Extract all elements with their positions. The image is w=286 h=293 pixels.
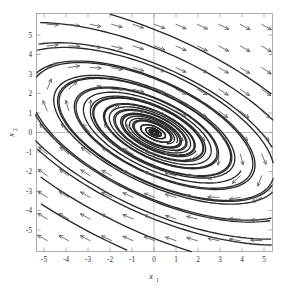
- field-arrow: [187, 237, 198, 241]
- field-arrow: [80, 214, 90, 219]
- field-arrow: [144, 172, 154, 176]
- field-arrow: [262, 111, 270, 118]
- field-arrow: [219, 24, 229, 29]
- x-tick-label: 2: [196, 256, 200, 264]
- field-arrow: [112, 46, 123, 49]
- field-arrow: [176, 68, 186, 73]
- field-arrow: [240, 46, 250, 51]
- trajectory-curve: [41, 204, 126, 250]
- y-tick-label: 1: [28, 110, 32, 118]
- field-arrow: [90, 66, 101, 69]
- field-arrow: [69, 65, 80, 68]
- x-axis-title-base: x: [148, 272, 153, 281]
- field-arrow: [240, 154, 243, 165]
- y-tick-label: -1: [26, 149, 32, 157]
- y-axis-title-base: x: [7, 133, 16, 138]
- field-arrow: [38, 213, 47, 219]
- field-arrow: [102, 214, 112, 219]
- x-tick-label: 5: [262, 256, 266, 264]
- x-axis-tickmarks: [44, 248, 264, 252]
- trajectory-curve: [41, 177, 191, 251]
- x-tick-label: -1: [129, 256, 135, 264]
- trajectory-curve: [36, 141, 271, 239]
- x-axis-title: x 1: [148, 272, 159, 283]
- x-axis-title-subscript: 1: [156, 277, 159, 283]
- y-tick-label: 2: [28, 90, 32, 98]
- field-arrow: [187, 216, 198, 219]
- y-tick-label: -5: [26, 227, 32, 235]
- y-tick-label: -2: [26, 168, 32, 176]
- field-arrow: [59, 235, 69, 240]
- x-tick-label: 1: [174, 256, 178, 264]
- field-arrow: [262, 68, 271, 74]
- y-axis-tick-labels: 5 4 3 2 1 0 -1 -2 -3 -4 -5: [26, 32, 32, 235]
- field-arrow: [47, 44, 58, 47]
- field-arrow: [144, 215, 154, 219]
- x-tick-label: 4: [240, 256, 244, 264]
- field-arrow: [47, 79, 51, 89]
- field-arrow: [123, 214, 133, 219]
- x-axis-tickmarks-top: [44, 14, 264, 18]
- y-tick-label: 4: [28, 51, 32, 59]
- field-arrow: [262, 133, 269, 141]
- y-tick-label: -3: [26, 188, 32, 196]
- field-arrow: [38, 235, 48, 240]
- y-tick-label: -4: [26, 207, 32, 215]
- field-arrow: [197, 46, 207, 51]
- field-arrow: [176, 46, 186, 51]
- y-tick-label: 5: [28, 32, 32, 40]
- field-arrow: [262, 46, 271, 52]
- field-arrow: [112, 67, 123, 70]
- y-axis-title-subscript: 2: [12, 128, 18, 131]
- field-arrow: [155, 24, 165, 28]
- field-arrow: [165, 215, 175, 219]
- phase-portrait-figure: -5 -4 -3 -2 -1 0 1 2 3 4 5 5 4 3 2 1 0 -…: [0, 0, 286, 293]
- x-tick-label: 3: [218, 256, 222, 264]
- field-arrow: [155, 68, 165, 72]
- x-tick-label: -3: [85, 256, 91, 264]
- field-arrow: [208, 196, 219, 199]
- field-arrow: [123, 236, 133, 241]
- field-arrow: [240, 24, 250, 29]
- field-arrow: [219, 46, 229, 51]
- field-arrow: [38, 169, 47, 175]
- field-arrow: [38, 191, 47, 197]
- field-arrow: [40, 124, 47, 132]
- x-tick-label: -4: [63, 256, 69, 264]
- field-arrow: [133, 46, 143, 50]
- plot-canvas: -5 -4 -3 -2 -1 0 1 2 3 4 5 5 4 3 2 1 0 -…: [0, 0, 286, 293]
- x-tick-label: 0: [152, 256, 156, 264]
- field-arrow: [123, 193, 133, 198]
- y-tick-label: 3: [28, 71, 32, 79]
- field-arrow: [240, 68, 249, 74]
- x-tick-label: -5: [41, 256, 47, 264]
- field-arrow: [43, 101, 47, 111]
- field-arrow: [104, 124, 111, 132]
- field-arrow: [112, 24, 123, 28]
- field-arrow: [65, 100, 68, 111]
- field-arrow: [257, 176, 261, 186]
- field-arrow: [80, 236, 90, 241]
- field-arrow: [262, 24, 272, 29]
- field-arrow: [219, 89, 228, 95]
- field-arrow: [262, 154, 266, 164]
- field-arrow: [176, 24, 186, 29]
- field-arrow: [90, 24, 101, 27]
- field-arrow: [166, 237, 176, 241]
- y-axis-tickmarks: [37, 35, 41, 230]
- y-axis-title: x 2: [7, 128, 18, 138]
- field-arrow: [232, 176, 240, 183]
- field-arrow: [197, 68, 207, 73]
- field-arrow: [219, 68, 229, 73]
- x-tick-label: -2: [107, 256, 113, 264]
- field-arrow: [81, 192, 91, 197]
- field-arrow: [81, 170, 90, 176]
- y-tick-label: 0: [28, 129, 32, 137]
- field-arrow: [229, 238, 240, 241]
- x-axis-tick-labels: -5 -4 -3 -2 -1 0 1 2 3 4 5: [41, 256, 266, 264]
- y-axis-tickmarks-right: [269, 35, 273, 230]
- field-arrow: [197, 24, 207, 29]
